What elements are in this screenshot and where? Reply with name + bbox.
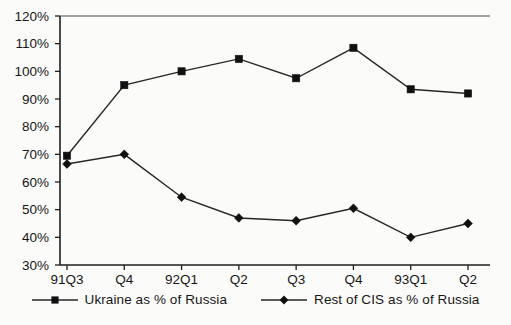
data-point-square — [464, 90, 471, 97]
chart-plot-area: 30%40%50%60%70%80%90%100%110%120% 91Q3Q4… — [0, 0, 511, 325]
line-chart: 30%40%50%60%70%80%90%100%110%120% 91Q3Q4… — [0, 0, 511, 325]
x-tick-label: 91Q3 — [50, 272, 83, 287]
series-line — [67, 48, 468, 156]
data-point-square — [178, 68, 185, 75]
series-line — [67, 154, 468, 237]
y-tick-label: 100% — [14, 64, 49, 79]
x-tick-label: 93Q1 — [394, 272, 427, 287]
data-point-diamond — [464, 219, 473, 228]
legend-label: Ukraine as % of Russia — [85, 292, 228, 307]
legend-item[interactable]: Rest of CIS as % of Russia — [261, 292, 479, 307]
x-axis-tick-labels: 91Q3Q492Q1Q2Q3Q493Q1Q2 — [50, 272, 477, 287]
legend-label: Rest of CIS as % of Russia — [314, 292, 479, 307]
data-point-diamond — [234, 214, 243, 223]
y-tick-label: 80% — [22, 119, 49, 134]
chart-legend: Ukraine as % of RussiaRest of CIS as % o… — [0, 292, 511, 307]
x-tick-label: Q2 — [230, 272, 248, 287]
y-tick-label: 30% — [22, 258, 49, 273]
y-tick-label: 70% — [22, 147, 49, 162]
y-tick-label: 40% — [22, 230, 49, 245]
legend-item[interactable]: Ukraine as % of Russia — [32, 292, 228, 307]
y-tick-label: 120% — [14, 9, 49, 24]
y-tick-label: 90% — [22, 92, 49, 107]
x-tick-label: Q4 — [344, 272, 363, 287]
y-tick-label: 50% — [22, 202, 49, 217]
x-tick-label: 92Q1 — [165, 272, 198, 287]
data-point-diamond — [292, 216, 301, 225]
data-point-square — [407, 86, 414, 93]
y-tick-label: 110% — [15, 36, 49, 51]
y-tick-label: 60% — [22, 175, 49, 190]
data-point-square — [121, 82, 128, 89]
x-tick-label: Q4 — [115, 272, 134, 287]
data-point-square — [293, 75, 300, 82]
data-point-diamond — [406, 233, 415, 242]
legend-square-marker-icon — [32, 293, 78, 307]
data-point-square — [350, 44, 357, 51]
y-axis-tick-labels: 30%40%50%60%70%80%90%100%110%120% — [14, 9, 49, 273]
data-point-square — [63, 152, 70, 159]
series-markers — [63, 44, 473, 242]
series-polylines — [67, 48, 468, 238]
x-tick-label: Q3 — [287, 272, 305, 287]
data-point-diamond — [349, 204, 358, 213]
data-point-diamond — [63, 160, 72, 169]
x-tick-label: Q2 — [459, 272, 477, 287]
data-point-square — [235, 55, 242, 62]
legend-diamond-marker-icon — [261, 293, 307, 307]
